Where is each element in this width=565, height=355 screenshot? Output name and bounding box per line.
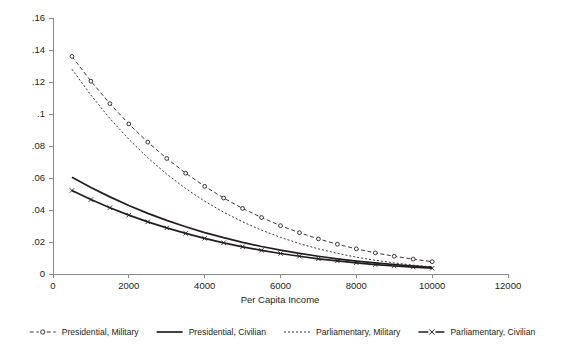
legend-item-label: Presidential, Military <box>62 327 140 337</box>
x-axis-title: Per Capita Income <box>241 294 320 305</box>
legend-item-parliamentary-civilian[interactable]: Parliamentary, Civilian <box>418 327 535 337</box>
data-point-marker <box>165 157 169 161</box>
series-presidential-military <box>70 55 434 264</box>
series-parliamentary-military <box>72 69 432 267</box>
data-point-marker <box>411 257 415 261</box>
y-tick-label: 0 <box>40 268 45 279</box>
y-tick-label: .08 <box>32 140 45 151</box>
x-tick-label: 0 <box>50 280 55 291</box>
x-tick-label: 8000 <box>346 280 367 291</box>
axes-group <box>53 18 508 274</box>
chart-legend: Presidential, MilitaryPresidential, Civi… <box>30 327 536 337</box>
data-point-marker <box>335 242 339 246</box>
x-tick-label: 12000 <box>495 280 521 291</box>
data-point-marker <box>89 79 93 83</box>
legend-item-presidential-military[interactable]: Presidential, Military <box>30 327 140 337</box>
legend-marker-x-icon <box>429 329 434 334</box>
series-line <box>72 69 432 267</box>
x-tick-label: 2000 <box>118 280 139 291</box>
y-tick-label: .16 <box>32 12 45 23</box>
data-point-marker <box>184 171 188 175</box>
x-tick-label: 4000 <box>194 280 215 291</box>
legend-item-label: Parliamentary, Civilian <box>450 327 535 337</box>
data-point-marker <box>260 216 264 220</box>
legend-marker-circle-icon <box>41 330 45 334</box>
series-parliamentary-civilian <box>70 188 435 270</box>
y-tick-label: .06 <box>32 172 45 183</box>
series-line <box>72 56 432 261</box>
data-point-marker <box>241 207 245 211</box>
data-point-marker <box>222 196 226 200</box>
chart-container: 0.02.04.06.08.1.12.14.16 020004000600080… <box>0 0 565 355</box>
legend-item-presidential-civilian[interactable]: Presidential, Civilian <box>157 327 267 337</box>
legend-item-label: Presidential, Civilian <box>189 327 267 337</box>
y-tick-label: .1 <box>37 108 45 119</box>
data-point-marker <box>127 122 131 126</box>
y-tick-label: .14 <box>32 44 45 55</box>
data-point-marker <box>354 247 358 251</box>
y-tick-label: .04 <box>32 204 45 215</box>
x-axis-ticks <box>53 274 508 278</box>
data-point-marker <box>298 231 302 235</box>
data-point-marker <box>70 55 74 59</box>
series-line <box>72 177 432 267</box>
data-point-marker <box>430 260 434 264</box>
y-tick-label: .12 <box>32 76 45 87</box>
legend-item-label: Parliamentary, Military <box>316 327 401 337</box>
series-presidential-civilian <box>72 177 432 267</box>
chart-svg: 0.02.04.06.08.1.12.14.16 020004000600080… <box>0 0 565 355</box>
data-point-marker <box>392 254 396 258</box>
series-line <box>72 190 432 268</box>
x-tick-label: 10000 <box>419 280 445 291</box>
y-axis-tick-labels: 0.02.04.06.08.1.12.14.16 <box>32 12 45 279</box>
data-point-marker <box>203 184 207 188</box>
legend-item-parliamentary-military[interactable]: Parliamentary, Military <box>284 327 401 337</box>
data-point-marker <box>279 224 283 228</box>
data-point-marker <box>108 102 112 106</box>
y-axis-ticks <box>49 18 53 274</box>
y-tick-label: .02 <box>32 236 45 247</box>
data-point-marker <box>146 140 150 144</box>
x-tick-label: 6000 <box>270 280 291 291</box>
data-point-marker <box>373 251 377 255</box>
data-point-marker <box>317 237 321 241</box>
series-group <box>70 55 435 271</box>
x-axis-tick-labels: 020004000600080001000012000 <box>50 280 521 291</box>
